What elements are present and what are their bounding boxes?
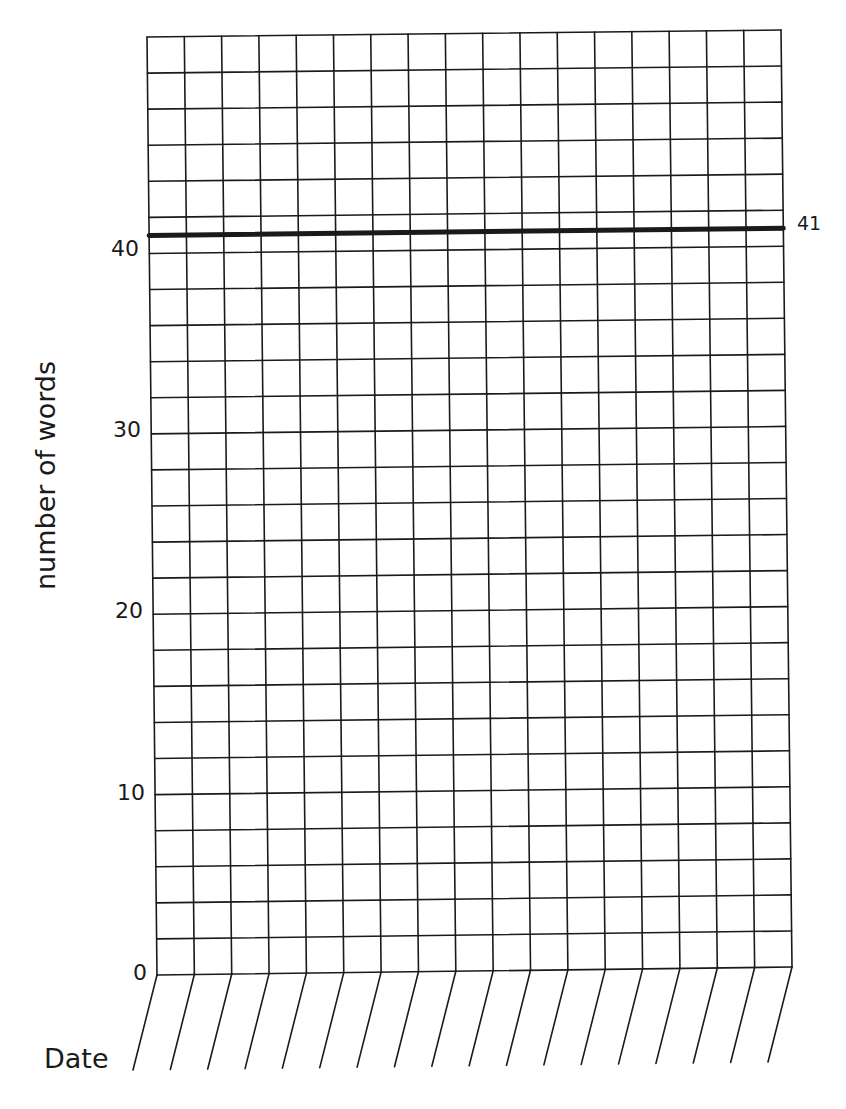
y-axis-title: number of words [32, 361, 59, 590]
date-entry-slash [469, 971, 493, 1066]
y-tick-10: 10 [95, 782, 145, 804]
horizontal-gridline [151, 426, 785, 433]
horizontal-gridline [153, 607, 788, 615]
horizontal-gridline [152, 499, 787, 507]
date-entry-slash [507, 970, 531, 1065]
date-entry-slash [693, 968, 717, 1063]
horizontal-gridline [147, 66, 781, 73]
y-tick-20: 20 [93, 600, 143, 622]
horizontal-gridline [153, 571, 788, 579]
horizontal-gridline [149, 174, 783, 181]
horizontal-gridline [152, 535, 787, 543]
horizontal-gridline [154, 643, 789, 651]
x-axis-title: Date [44, 1045, 109, 1072]
horizontal-gridline [149, 246, 783, 253]
horizontal-gridline [147, 30, 781, 37]
date-entry-slash [581, 969, 605, 1064]
horizontal-gridline [155, 823, 790, 831]
date-entry-slash [432, 971, 456, 1066]
goal-value-label: 41 [797, 214, 821, 233]
horizontal-gridline [150, 318, 784, 325]
date-entry-slash [320, 973, 344, 1068]
date-entry-slash [170, 975, 194, 1070]
horizontal-gridline [154, 679, 789, 687]
horizontal-gridline [150, 282, 784, 289]
y-tick-40: 40 [89, 238, 139, 260]
date-entry-slash [394, 972, 418, 1067]
date-entry-slash [208, 974, 232, 1069]
date-entry-slash [357, 972, 381, 1067]
date-entry-slash [768, 967, 792, 1062]
horizontal-gridline [148, 138, 782, 145]
y-tick-0: 0 [97, 962, 147, 984]
horizontal-gridline [150, 354, 784, 361]
horizontal-gridline [149, 210, 783, 217]
horizontal-gridline [157, 967, 792, 975]
date-entry-slash [656, 968, 680, 1063]
horizontal-gridline [152, 462, 786, 469]
horizontal-gridline [148, 102, 782, 109]
horizontal-gridline [151, 390, 785, 397]
horizontal-gridline [154, 715, 789, 723]
date-entry-slash [619, 969, 643, 1064]
y-tick-30: 30 [91, 419, 141, 441]
date-entry-slash [544, 970, 568, 1065]
goal-line [149, 228, 783, 235]
horizontal-gridline [155, 787, 790, 795]
horizontal-gridline [156, 859, 791, 867]
chart-grid [0, 0, 846, 1109]
date-entry-slash [282, 973, 306, 1068]
date-entry-slash [133, 975, 157, 1070]
horizontal-gridline [155, 751, 790, 759]
horizontal-gridline [157, 931, 792, 939]
date-entry-slash [731, 967, 755, 1062]
horizontal-gridline [156, 895, 791, 903]
date-entry-slash [245, 974, 269, 1069]
